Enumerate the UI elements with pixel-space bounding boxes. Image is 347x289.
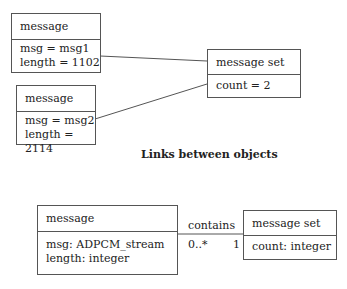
object-name: message set <box>208 50 300 75</box>
object-message-msg1[interactable]: message msg = msg1 length = 1102 <box>11 13 101 73</box>
attribute: msg: ADPCM_stream <box>46 238 177 252</box>
multiplicity-message: 0..* <box>188 238 208 251</box>
multiplicity-set: 1 <box>233 238 240 251</box>
class-attributes: count: integer <box>244 236 336 254</box>
object-name: message <box>12 14 100 40</box>
link-msg1-to-set <box>100 56 207 61</box>
attribute: length: integer <box>46 252 177 266</box>
attribute: length = 1102 <box>20 56 100 70</box>
attribute: count: integer <box>252 240 336 254</box>
object-message-set[interactable]: message set count = 2 <box>207 49 301 98</box>
object-attributes: count = 2 <box>208 75 300 93</box>
class-name: message set <box>244 211 336 236</box>
attribute: msg = msg2 <box>25 114 95 128</box>
object-message-msg2[interactable]: message msg = msg2 length = 2114 <box>16 85 96 145</box>
association-name: contains <box>188 219 235 232</box>
object-attributes: msg = msg1 length = 1102 <box>12 40 100 70</box>
object-name: message <box>17 86 95 112</box>
link-msg2-to-set <box>95 84 207 119</box>
attribute: count = 2 <box>216 79 300 93</box>
class-message[interactable]: message msg: ADPCM_stream length: intege… <box>37 205 178 275</box>
class-name: message <box>38 206 177 232</box>
object-attributes: msg = msg2 length = 2114 <box>17 112 95 156</box>
attribute: msg = msg1 <box>20 42 100 56</box>
attribute: length = 2114 <box>25 128 95 156</box>
diagram-caption: Links between objects <box>141 148 278 161</box>
class-message-set[interactable]: message set count: integer <box>243 210 337 260</box>
class-attributes: msg: ADPCM_stream length: integer <box>38 232 177 266</box>
